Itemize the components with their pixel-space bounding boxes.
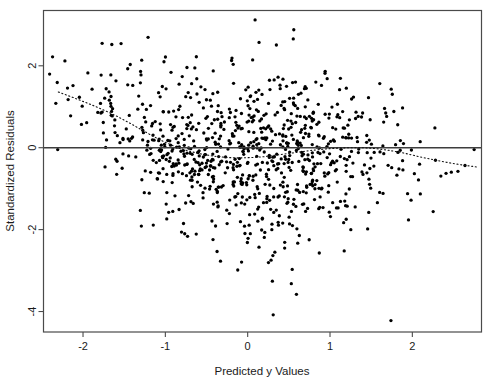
data-point	[252, 140, 255, 143]
data-point	[271, 254, 274, 257]
data-point	[225, 209, 228, 212]
data-point	[373, 151, 376, 154]
data-point	[246, 241, 249, 244]
data-point	[279, 143, 282, 146]
data-point	[303, 127, 306, 130]
data-point	[290, 133, 293, 136]
data-point	[162, 110, 165, 113]
data-point	[287, 216, 290, 219]
data-point	[166, 152, 169, 155]
data-point	[162, 60, 165, 63]
data-point	[305, 184, 308, 187]
data-point	[327, 171, 330, 174]
data-point	[284, 135, 287, 138]
data-point	[149, 171, 152, 174]
data-point	[308, 238, 311, 241]
data-point	[386, 164, 389, 167]
data-point	[203, 187, 206, 190]
data-point	[137, 94, 140, 97]
data-point	[294, 205, 297, 208]
data-point	[195, 92, 198, 95]
data-point	[274, 133, 277, 136]
data-point	[345, 170, 348, 173]
data-point	[159, 128, 162, 131]
data-point	[254, 91, 257, 94]
data-point	[291, 161, 294, 164]
data-point	[256, 98, 259, 101]
data-point	[308, 115, 311, 118]
data-point	[245, 183, 248, 186]
data-point	[102, 121, 105, 124]
data-point	[354, 111, 357, 114]
data-point	[285, 85, 288, 88]
data-point	[115, 173, 118, 176]
data-point	[185, 66, 188, 69]
data-point	[360, 115, 363, 118]
data-point	[171, 126, 174, 129]
data-point	[202, 106, 205, 109]
y-tick-label: -4	[27, 307, 39, 317]
data-point	[180, 230, 183, 233]
data-point	[444, 172, 447, 175]
data-point	[195, 128, 198, 131]
data-point	[366, 227, 369, 230]
data-point	[257, 142, 260, 145]
data-point	[116, 134, 119, 137]
data-point	[260, 93, 263, 96]
data-point	[276, 162, 279, 165]
data-point	[302, 136, 305, 139]
data-point	[399, 139, 402, 142]
data-point	[265, 201, 268, 204]
data-point	[257, 110, 260, 113]
data-point	[190, 113, 193, 116]
data-point	[384, 111, 387, 114]
data-point	[66, 98, 69, 101]
data-point	[254, 196, 257, 199]
data-point	[241, 173, 244, 176]
data-point	[273, 78, 276, 81]
data-point	[109, 73, 112, 76]
data-point	[234, 129, 237, 132]
data-point	[216, 190, 219, 193]
data-point	[259, 168, 262, 171]
data-point	[246, 86, 249, 89]
x-tick-label: 0	[245, 340, 251, 352]
data-point	[288, 222, 291, 225]
data-point	[228, 116, 231, 119]
data-point	[342, 221, 345, 224]
data-point	[236, 192, 239, 195]
data-point	[367, 96, 370, 99]
data-point	[248, 174, 251, 177]
data-point	[268, 79, 271, 82]
data-point	[292, 97, 295, 100]
data-point	[304, 105, 307, 108]
data-point	[330, 105, 333, 108]
data-point	[287, 166, 290, 169]
data-point	[184, 201, 187, 204]
data-point	[283, 123, 286, 126]
data-point	[256, 219, 259, 222]
data-point	[245, 198, 248, 201]
data-point	[251, 116, 254, 119]
data-point	[321, 206, 324, 209]
data-point	[269, 127, 272, 130]
data-point	[243, 225, 246, 228]
data-point	[190, 179, 193, 182]
data-point	[345, 164, 348, 167]
data-point	[99, 102, 102, 105]
data-point	[336, 113, 339, 116]
data-point	[139, 73, 142, 76]
data-point	[315, 179, 318, 182]
data-point	[85, 121, 88, 124]
data-point	[269, 208, 272, 211]
data-point	[243, 232, 246, 235]
data-point	[280, 171, 283, 174]
data-point	[323, 72, 326, 75]
data-point	[203, 88, 206, 91]
data-point	[275, 43, 278, 46]
data-point	[165, 158, 168, 161]
data-point	[345, 87, 348, 90]
data-point	[262, 114, 265, 117]
data-point	[286, 161, 289, 164]
data-point	[240, 143, 243, 146]
